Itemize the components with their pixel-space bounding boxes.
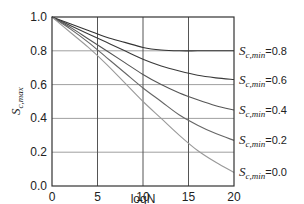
series-label: Sc,min=0.4	[239, 102, 287, 119]
y-tick-label: 0.8	[30, 44, 47, 58]
y-axis-ticks: 0.00.20.40.60.81.0	[30, 10, 47, 193]
series-labels: Sc,min=0.8Sc,min=0.6Sc,min=0.4Sc,min=0.2…	[239, 43, 287, 182]
y-tick-label: 0.0	[30, 179, 47, 193]
x-tick-label: 0	[49, 190, 56, 204]
x-tick-label: 20	[227, 190, 241, 204]
series-label: Sc,min=0.6	[239, 72, 287, 89]
x-tick-label: 15	[182, 190, 196, 204]
y-tick-label: 0.6	[30, 78, 47, 92]
y-tick-label: 0.2	[30, 145, 47, 159]
series-label: Sc,min=0.0	[239, 164, 287, 181]
x-tick-label: 5	[94, 190, 101, 204]
chart: 0.00.20.40.60.81.0 05101520 logN Sc,max …	[0, 0, 304, 204]
y-axis-label: Sc,max	[8, 87, 25, 115]
series-label: Sc,min=0.2	[239, 132, 287, 149]
y-tick-label: 1.0	[30, 10, 47, 24]
series-label: Sc,min=0.8	[239, 43, 287, 60]
y-tick-label: 0.4	[30, 111, 47, 125]
x-axis-label: logN	[131, 192, 156, 204]
